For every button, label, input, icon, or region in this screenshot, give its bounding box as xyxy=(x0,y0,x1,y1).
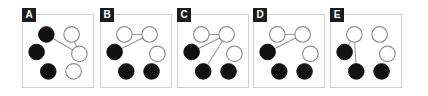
node-open-circle xyxy=(72,46,88,62)
panel-c: C xyxy=(177,14,249,88)
node-filled-circle xyxy=(39,27,55,43)
panel-b: B xyxy=(100,14,172,88)
node-open-circle xyxy=(270,27,286,43)
node-open-circle xyxy=(142,27,158,43)
node-filled-circle xyxy=(337,44,353,60)
node-filled-circle xyxy=(221,64,237,80)
graph-canvas xyxy=(254,15,324,87)
node-open-circle xyxy=(295,27,311,43)
node-filled-circle xyxy=(196,64,212,80)
node-filled-circle xyxy=(349,64,365,80)
node-filled-circle xyxy=(29,44,45,60)
node-filled-circle xyxy=(184,44,200,60)
node-filled-circle xyxy=(144,64,160,80)
graph-canvas xyxy=(178,15,248,87)
panel-a: A xyxy=(22,14,94,88)
node-open-circle xyxy=(380,46,396,62)
node-open-circle xyxy=(219,27,235,43)
figure-panel-grid: ABCDE xyxy=(0,0,428,96)
node-filled-circle xyxy=(260,44,276,60)
panel-e: E xyxy=(330,14,402,88)
node-filled-circle xyxy=(41,64,57,80)
node-open-circle xyxy=(64,27,80,43)
node-open-circle xyxy=(372,27,388,43)
graph-canvas xyxy=(331,15,401,87)
node-open-circle xyxy=(150,46,166,62)
panel-d: D xyxy=(253,14,325,88)
node-filled-circle xyxy=(374,64,390,80)
graph-canvas xyxy=(23,15,93,87)
node-filled-circle xyxy=(107,44,123,60)
node-filled-circle xyxy=(297,64,313,80)
node-filled-circle xyxy=(272,64,288,80)
node-open-circle xyxy=(347,27,363,43)
node-filled-circle xyxy=(119,64,135,80)
node-open-circle xyxy=(66,64,82,80)
node-open-circle xyxy=(303,46,319,62)
node-open-circle xyxy=(227,46,243,62)
node-open-circle xyxy=(194,27,210,43)
graph-canvas xyxy=(101,15,171,87)
node-open-circle xyxy=(117,27,133,43)
